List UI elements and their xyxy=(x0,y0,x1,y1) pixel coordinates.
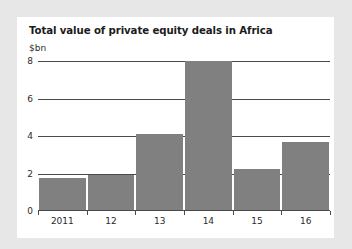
x-axis-tick-label: 14 xyxy=(184,216,233,226)
chart-card: Total value of private equity deals in A… xyxy=(17,17,334,238)
bar-2011 xyxy=(39,178,86,210)
y-axis-tick-label: 0 xyxy=(27,207,33,216)
bar-13 xyxy=(136,134,183,210)
x-axis-tick-labels: 20111213141516 xyxy=(38,216,330,226)
y-axis-tick-label: 6 xyxy=(27,94,33,103)
x-axis-tick xyxy=(184,211,185,215)
x-axis-tick-label: 15 xyxy=(233,216,282,226)
bar-slot xyxy=(87,61,136,210)
bar-slot xyxy=(135,61,184,210)
bar-16 xyxy=(282,142,329,210)
bar-14 xyxy=(185,61,232,210)
bar-slot xyxy=(281,61,330,210)
x-axis-tick xyxy=(38,211,39,215)
x-axis-tick xyxy=(87,211,88,215)
bar-slot xyxy=(38,61,87,210)
y-axis-tick-label: 2 xyxy=(27,169,33,178)
x-axis-tick xyxy=(135,211,136,215)
y-axis-unit-label: $bn xyxy=(29,43,46,53)
bar-series xyxy=(38,61,330,210)
bar-slot xyxy=(233,61,282,210)
x-axis-tick-label: 2011 xyxy=(38,216,87,226)
bar-15 xyxy=(234,169,281,210)
y-axis-tick-label: 8 xyxy=(27,57,33,66)
x-axis-tick-label: 12 xyxy=(87,216,136,226)
bar-12 xyxy=(88,175,135,210)
x-axis-tick-label: 16 xyxy=(281,216,330,226)
plot-area: 02468 xyxy=(38,61,330,211)
x-axis-tick-label: 13 xyxy=(135,216,184,226)
x-axis-tick xyxy=(233,211,234,215)
y-axis-tick-label: 4 xyxy=(27,132,33,141)
chart-title: Total value of private equity deals in A… xyxy=(29,25,272,36)
bar-slot xyxy=(184,61,233,210)
x-axis-tick xyxy=(281,211,282,215)
x-axis-tick xyxy=(330,211,331,215)
